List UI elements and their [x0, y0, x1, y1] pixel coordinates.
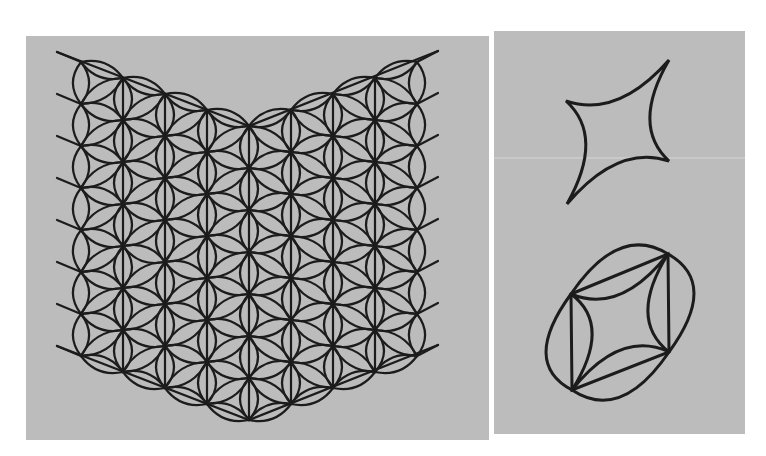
figure-canvas — [0, 0, 766, 456]
curves-panel — [494, 31, 745, 434]
figure — [0, 0, 766, 456]
